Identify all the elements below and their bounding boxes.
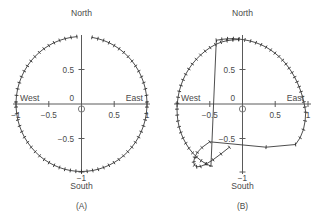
xticklabel-b-1: 1 (306, 111, 311, 120)
yticklabel-b--1: −1 (238, 174, 248, 183)
data-point-marker (98, 167, 99, 171)
xticklabel-a--0.5: −0.5 (41, 111, 58, 120)
data-point-marker (250, 39, 251, 43)
data-point-marker (303, 107, 307, 108)
data-point-marker (181, 79, 185, 80)
yticklabel-b-0.5: 0.5 (224, 66, 236, 75)
data-point-marker (255, 41, 256, 45)
data-point-marker (177, 126, 181, 127)
panel-b-plot: North South West East −0.5 0.5 1 0.5 −0.… (161, 0, 322, 217)
origin-label-a: 0 (69, 94, 74, 103)
panel-b: North South West East −0.5 0.5 1 0.5 −0.… (161, 0, 322, 217)
data-point-marker (103, 39, 104, 43)
data-point-marker (142, 125, 146, 126)
data-point-marker (20, 76, 24, 77)
data-point-marker (59, 166, 60, 170)
caption-a: (A) (76, 201, 87, 211)
panel-a: North South West East −1 −0.5 0.5 1 0.5 … (0, 0, 161, 217)
data-point-marker (303, 121, 307, 122)
data-point-marker (144, 88, 148, 89)
data-point-marker (92, 36, 93, 40)
xticklabel-a-1: 1 (145, 111, 150, 120)
xticklabel-a-0.5: 0.5 (109, 111, 121, 120)
data-point-marker (16, 89, 20, 90)
xticklabel-a--1: −1 (11, 111, 21, 120)
data-point-marker (176, 121, 180, 122)
panel-a-plot: North South West East −1 −0.5 0.5 1 0.5 … (0, 0, 161, 217)
label-west-b: West (181, 93, 201, 103)
data-point-marker (97, 37, 98, 41)
label-west-a: West (20, 93, 40, 103)
data-point-marker (71, 36, 72, 40)
yticklabel-a--1: −1 (77, 174, 87, 183)
yticklabel-a-0.5: 0.5 (63, 66, 75, 75)
data-point-marker (92, 169, 93, 173)
data-point-marker (226, 39, 227, 43)
data-point-marker (177, 91, 181, 92)
data-point-marker (192, 162, 196, 163)
data-point-marker (139, 131, 143, 132)
label-east-b: East (287, 93, 305, 103)
data-point-marker (239, 37, 240, 41)
data-point-marker (70, 169, 71, 173)
yticklabel-a--0.5: −0.5 (58, 135, 75, 144)
data-point-marker (18, 82, 22, 83)
caption-b: (B) (237, 201, 248, 211)
data-point-marker (216, 38, 217, 42)
label-north-b: North (232, 8, 253, 18)
xticklabel-b-0.5: 0.5 (270, 111, 282, 120)
data-point-marker (65, 37, 66, 41)
data-point-marker (179, 85, 183, 86)
data-point-marker (297, 86, 301, 87)
label-east-a: East (126, 93, 144, 103)
data-point-marker (64, 167, 65, 171)
data-point-marker (145, 95, 149, 96)
xticklabel-b--0.5: −0.5 (202, 111, 219, 120)
label-north-a: North (71, 8, 92, 18)
yticklabel-b--0.5: −0.5 (219, 135, 236, 144)
data-point-marker (87, 169, 88, 173)
figure-root: North South West East −1 −0.5 0.5 1 0.5 … (0, 0, 322, 217)
data-point-marker (244, 38, 245, 42)
origin-label-b: 0 (230, 94, 235, 103)
data-point-marker (193, 157, 197, 158)
data-point-marker (142, 82, 146, 83)
